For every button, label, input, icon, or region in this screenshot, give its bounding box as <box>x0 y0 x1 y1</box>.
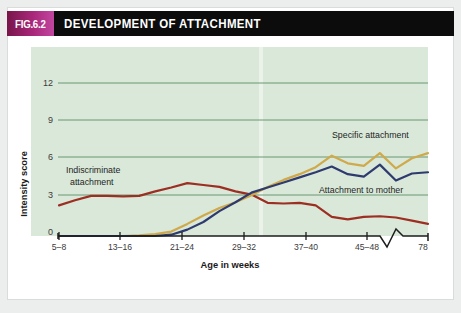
chart-region: 12 9 6 3 0 Intensity score <box>7 36 454 300</box>
x-tick-label-1: 13–16 <box>108 242 132 252</box>
y-tick-label-0: 0 <box>48 227 53 237</box>
scan-streak <box>259 47 263 236</box>
figure-header-bar: FIG.6.2 DEVELOPMENT OF ATTACHMENT <box>7 11 454 36</box>
y-tick-label-6: 6 <box>48 152 53 162</box>
y-tick-label-9: 9 <box>48 115 53 125</box>
figure-title: DEVELOPMENT OF ATTACHMENT <box>54 11 261 36</box>
x-tick-label-3: 29–32 <box>232 242 256 252</box>
x-axis-title: Age in weeks <box>201 260 260 270</box>
x-axis-tick-labels: 5–813–1621–2429–3237–4045–4878 <box>52 242 428 252</box>
figure-number-label: FIG.6.2 <box>15 18 45 30</box>
figure-number-badge: FIG.6.2 <box>7 11 54 36</box>
x-tick-label-0: 5–8 <box>52 242 67 252</box>
annotation-indiscriminate-line2: attachment <box>70 177 114 187</box>
annotation-specific-attachment: Specific attachment <box>332 130 409 140</box>
y-tick-label-12: 12 <box>43 78 53 88</box>
y-axis-title: Intensity score <box>19 151 29 217</box>
annotation-attachment-to-mother: Attachment to mother <box>319 185 403 195</box>
x-tick-label-5: 45–48 <box>355 242 379 252</box>
y-tick-label-3: 3 <box>48 190 53 200</box>
x-tick-label-6: 78 <box>418 242 428 252</box>
annotation-indiscriminate-line1: Indiscriminate <box>66 165 120 175</box>
x-tick-label-2: 21–24 <box>170 242 194 252</box>
line-chart: 12 9 6 3 0 Intensity score <box>7 36 454 300</box>
plot-background <box>31 47 428 236</box>
x-tick-label-4: 37–40 <box>294 242 318 252</box>
figure-root: FIG.6.2 DEVELOPMENT OF ATTACHMENT 12 9 6… <box>0 0 461 313</box>
